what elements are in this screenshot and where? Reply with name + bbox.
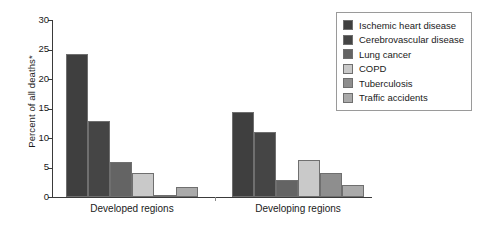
- bar: [66, 54, 88, 197]
- bar: [88, 121, 110, 197]
- y-tick-label: 0: [44, 191, 49, 202]
- legend-item-label: COPD: [359, 64, 386, 74]
- bar: [132, 173, 154, 197]
- bar: [276, 180, 298, 197]
- legend-item: Lung cancer: [343, 47, 464, 62]
- x-axis-group-label: Developing regions: [232, 203, 364, 214]
- bar: [110, 162, 132, 197]
- plot-area: 051015202530 Developed regionsDeveloping…: [52, 20, 372, 197]
- y-tick-label: 10: [38, 132, 49, 143]
- legend-item: Traffic accidents: [343, 91, 464, 106]
- legend-item: Cerebrovascular disease: [343, 33, 464, 48]
- legend-item-label: Tuberculosis: [359, 79, 413, 89]
- y-tick-label: 30: [38, 14, 49, 25]
- legend-swatch-icon: [343, 78, 353, 88]
- bar: [342, 185, 364, 197]
- legend-item-label: Ischemic heart disease: [359, 21, 456, 31]
- bar: [232, 112, 254, 197]
- legend-item: Tuberculosis: [343, 76, 464, 91]
- x-axis-group-label: Developed regions: [66, 203, 198, 214]
- y-axis-label: Percent of all deaths*: [26, 27, 37, 177]
- legend-swatch-icon: [343, 93, 353, 103]
- bar-chart: Percent of all deaths* 051015202530 Deve…: [0, 0, 496, 229]
- legend-item: COPD: [343, 62, 464, 77]
- legend-item-label: Traffic accidents: [359, 93, 428, 103]
- bar: [254, 132, 276, 197]
- bar: [298, 160, 320, 197]
- legend-swatch-icon: [343, 20, 353, 30]
- legend-item-label: Lung cancer: [359, 50, 411, 60]
- group-separator-tick: [215, 197, 216, 201]
- y-axis-line: [52, 20, 53, 197]
- bar: [154, 195, 176, 197]
- bar: [176, 187, 198, 197]
- legend-swatch-icon: [343, 49, 353, 59]
- legend-swatch-icon: [343, 64, 353, 74]
- y-tick-label: 20: [38, 73, 49, 84]
- legend: Ischemic heart diseaseCerebrovascular di…: [336, 12, 472, 111]
- legend-item-label: Cerebrovascular disease: [359, 35, 464, 45]
- legend-swatch-icon: [343, 35, 353, 45]
- y-tick-label: 25: [38, 43, 49, 54]
- legend-item: Ischemic heart disease: [343, 18, 464, 33]
- bar-group: [66, 20, 198, 197]
- y-tick-label: 5: [44, 161, 49, 172]
- x-axis-line: [52, 197, 372, 198]
- bar: [320, 173, 342, 197]
- y-tick-label: 15: [38, 102, 49, 113]
